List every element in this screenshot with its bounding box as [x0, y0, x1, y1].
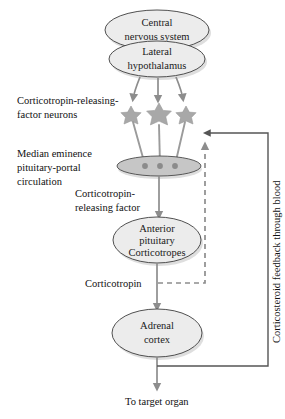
crf-neurons-label-line1: Corticotropin-releasing- [17, 95, 119, 106]
anterior-pituitary-label-line3: Corticotropes [128, 247, 185, 258]
cns-label-line1: Central [142, 17, 173, 28]
hypothalamus-to-neuron-arrow-left [133, 77, 140, 99]
axon-terminal-right [172, 163, 178, 169]
corticotropin-label: Corticotropin [85, 278, 142, 289]
axon-terminal-center [157, 163, 163, 169]
anterior-pituitary-label-line1: Anterior [139, 223, 175, 234]
crf-neurons-label-line2: factor neurons [17, 109, 77, 120]
hypothalamus-to-neuron-arrow-right [176, 77, 183, 99]
crf-label-line2: releasing factor [75, 202, 141, 213]
adrenal-label-line1: Adrenal [140, 320, 174, 331]
axon-terminal-left [142, 163, 148, 169]
adrenal-label-line2: cortex [144, 334, 171, 345]
median-eminence-label-line1: Median eminence [17, 148, 92, 159]
median-eminence-label-line2: pituitary-portal [17, 162, 81, 173]
diagram-canvas: Central nervous system Lateral hypothala… [0, 0, 285, 419]
hypothalamus-label-line2: hypothalamus [128, 60, 187, 71]
median-eminence-label-line3: circulation [17, 176, 63, 187]
hypothalamus-label-line1: Lateral [142, 46, 172, 57]
crf-neuron-star-left [121, 106, 141, 124]
node-adrenal-cortex [112, 309, 202, 357]
crf-neuron-star-center [147, 103, 172, 125]
hpa-axis-diagram: Central nervous system Lateral hypothala… [0, 0, 285, 419]
corticosteroid-feedback-label: Corticosteroid feedback through blood [271, 180, 282, 343]
crf-label-line1: Corticotropin- [75, 188, 136, 199]
crf-neuron-star-right [176, 106, 196, 124]
target-organ-label: To target organ [125, 396, 189, 407]
anterior-pituitary-label-line2: pituitary [139, 235, 175, 246]
